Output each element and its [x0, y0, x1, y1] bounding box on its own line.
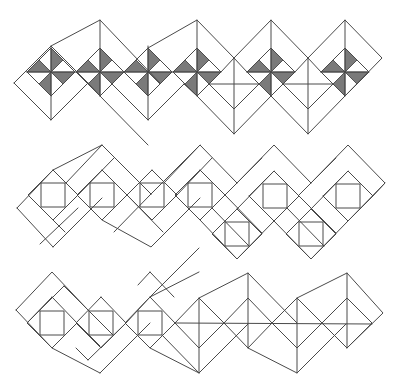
outline-segment — [88, 83, 148, 145]
shaded-triangle — [271, 48, 283, 72]
outline-segment — [66, 145, 102, 183]
outline-segment — [17, 208, 53, 247]
outline-segment — [263, 184, 287, 208]
shaded-triangle — [88, 72, 100, 96]
quilt-border-diagram — [0, 0, 402, 386]
outline-segment — [162, 335, 199, 373]
outline-segment — [175, 170, 225, 220]
outline-segment — [41, 183, 65, 207]
shaded-triangle — [345, 72, 369, 84]
shaded-triangle — [100, 48, 112, 72]
outline-segment — [200, 220, 274, 259]
outline-segment — [373, 183, 385, 196]
outline-segment — [100, 323, 150, 373]
shaded-triangle — [100, 72, 124, 84]
shaded-triangle — [333, 72, 345, 96]
outline-segment — [286, 209, 336, 259]
shaded-triangle — [321, 60, 345, 72]
outline-segment — [237, 145, 311, 183]
outline-segment — [76, 348, 88, 360]
outline-segment — [53, 198, 102, 247]
outline-segment — [40, 311, 64, 335]
shaded-triangle — [345, 48, 357, 72]
shaded-triangle — [259, 72, 271, 96]
pinwheel-row — [14, 20, 382, 145]
outline-segment — [299, 196, 336, 233]
outline-segment — [53, 145, 151, 194]
outline-segment — [311, 145, 385, 221]
shaded-triangle — [76, 60, 100, 72]
outline-segment — [323, 171, 373, 221]
shaded-triangle — [148, 48, 160, 72]
shaded-triangle — [39, 72, 51, 96]
outline-segment — [51, 83, 88, 120]
outline-segment — [188, 183, 212, 207]
outline-segment — [336, 184, 360, 208]
shaded-triangle — [271, 72, 295, 84]
outline-segment — [52, 348, 100, 373]
outline-segment — [164, 145, 200, 183]
outline-segment — [148, 20, 234, 58]
mixed-square-and-cross-row — [16, 248, 383, 373]
outline-segment — [27, 297, 77, 348]
shaded-triangle — [247, 60, 271, 72]
shaded-triangle — [173, 60, 197, 72]
outline-segment — [150, 248, 199, 297]
shaded-triangle — [51, 72, 75, 84]
outline-segment — [274, 221, 348, 259]
outline-segment — [249, 171, 299, 221]
square-in-square-row — [17, 145, 385, 259]
outline-segment — [299, 222, 323, 246]
shaded-triangle — [197, 48, 209, 72]
outline-segment — [102, 145, 151, 194]
outline-segment — [90, 183, 114, 207]
outline-segment — [88, 310, 113, 335]
outline-segment — [77, 170, 127, 220]
shaded-triangle — [197, 72, 221, 84]
outline-segment — [16, 272, 88, 310]
shaded-triangle — [185, 72, 197, 96]
shaded-triangle — [136, 72, 148, 96]
outline-segment — [28, 170, 78, 220]
outline-segment — [138, 272, 150, 285]
